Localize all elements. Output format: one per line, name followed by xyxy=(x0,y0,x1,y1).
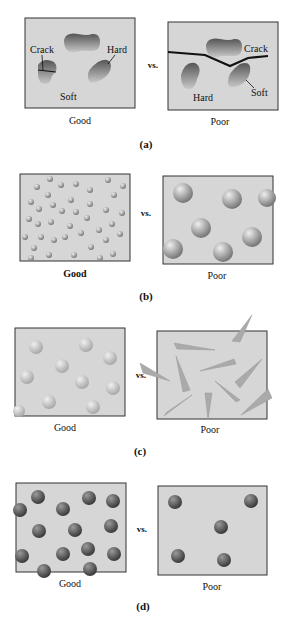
particle xyxy=(64,34,100,53)
vs-label: vs. xyxy=(137,524,147,534)
panel-d: Good vs. Poor (d) xyxy=(13,483,267,613)
label-hard: Hard xyxy=(107,44,127,55)
label-soft: Soft xyxy=(60,91,77,102)
caption-c: (c) xyxy=(134,445,147,458)
caption-a: (a) xyxy=(140,138,153,151)
good-label: Good xyxy=(63,268,87,279)
vs-label: vs. xyxy=(141,208,151,218)
poor-label: Poor xyxy=(211,116,231,127)
label-crack: Crack xyxy=(30,44,54,55)
poor-label: Poor xyxy=(203,581,223,592)
microstructure-diagram: Crack Hard Soft Good vs. Crack Hard Soft… xyxy=(0,0,288,623)
good-label: Good xyxy=(59,578,81,589)
label-hard: Hard xyxy=(193,92,213,103)
poor-label: Poor xyxy=(201,424,221,435)
vs-label: vs. xyxy=(148,60,158,70)
panel-a: Crack Hard Soft Good vs. Crack Hard Soft… xyxy=(25,18,278,151)
particle xyxy=(206,39,242,58)
panel-c: Good vs. Poor (c) xyxy=(13,315,272,458)
label-crack: Crack xyxy=(244,43,268,54)
caption-d: (d) xyxy=(136,600,150,613)
poor-label: Poor xyxy=(208,270,228,281)
caption-b: (b) xyxy=(139,290,153,303)
good-label: Good xyxy=(69,115,91,126)
good-label: Good xyxy=(54,422,76,433)
label-soft: Soft xyxy=(251,87,268,98)
panel-b: Good vs. Poor (b) xyxy=(20,174,276,303)
